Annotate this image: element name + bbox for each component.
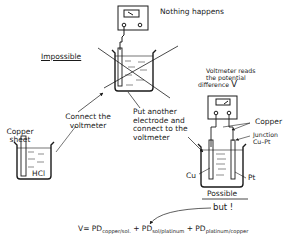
voltmeter-right-icon (208, 96, 237, 119)
equation-plus2: + (187, 224, 193, 233)
junction-label: Junction Cu–Pt (253, 131, 278, 145)
step-another-line4: voltmeter (133, 134, 188, 143)
copper-wire-label: Copper (255, 118, 282, 127)
reading-line3: difference V (198, 81, 255, 88)
voltmeter-top-icon (118, 6, 148, 30)
cross-out-icon (98, 46, 178, 98)
equation-plus1: + (133, 224, 139, 233)
equation-term3: PD (195, 224, 205, 233)
status-label-possible: Possible (207, 190, 237, 199)
equation-term3-sub: platinum/copper (206, 228, 249, 234)
reading-symbol-v: V (231, 79, 237, 89)
reading-line1: Voltmeter reads (206, 67, 255, 74)
pt-electrode-label: Pt (248, 174, 255, 183)
equation-term2-sub: sol/platinum (152, 228, 184, 234)
copper-sheet-label: Copper sheet (3, 128, 37, 144)
voltmeter-reading-label: Voltmeter reads the potential difference… (206, 67, 255, 88)
cu-electrode-label: Cu (186, 172, 196, 181)
status-label-impossible: Impossible (41, 53, 81, 62)
equation-term2: PD (142, 224, 152, 233)
result-label-nothing-happens: Nothing happens (160, 8, 224, 17)
caveat-label: but ! (213, 203, 233, 212)
copper-sheet-label-line2: sheet (3, 136, 37, 145)
potential-difference-equation: V= PDcopper/sol. + PDsol/platinum + PDpl… (78, 224, 248, 234)
hcl-label: HCl (32, 170, 45, 179)
equation-term1: PD (92, 224, 102, 233)
step-connect-line2: voltmeter (60, 122, 116, 131)
junction-line1: Junction (253, 131, 278, 138)
junction-line2: Cu–Pt (253, 138, 278, 145)
beaker-right-icon (198, 140, 246, 187)
step-put-another-electrode: Put another electrode and connect to the… (133, 108, 188, 142)
step-connect-voltmeter: Connect the voltmeter (60, 113, 116, 130)
beaker-top-icon (112, 48, 156, 91)
reading-difference-text: difference (198, 81, 229, 88)
equation-lhs: V= (78, 224, 89, 233)
equation-term1-sub: copper/sol. (102, 228, 131, 234)
